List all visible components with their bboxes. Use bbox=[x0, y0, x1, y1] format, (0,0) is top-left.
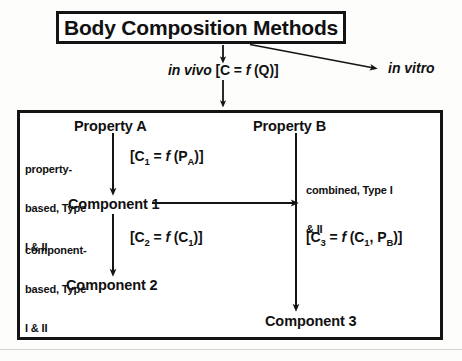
formula-c1-eq: = bbox=[150, 148, 166, 164]
edge-label-component-based-line2: based, Type bbox=[25, 283, 86, 296]
formula-c2-eq: = bbox=[150, 229, 166, 245]
diagram-canvas: Body Composition Methods in vivo [C = f … bbox=[0, 0, 462, 361]
formula-c3-eq: = bbox=[326, 229, 342, 245]
edge-label-combined-line1: combined, Type I bbox=[306, 184, 393, 197]
edge-label-component-based-line3: I & II bbox=[25, 322, 86, 335]
edge-label-property-based-line1: property- bbox=[25, 163, 86, 176]
in-vivo-italic-text: in vivo bbox=[168, 62, 212, 78]
formula-c3-arg-open: (C bbox=[346, 229, 364, 245]
node-property-b: Property B bbox=[253, 118, 326, 135]
formula-c1-arg-open: (P bbox=[170, 148, 188, 164]
formula-c2-arg-open: (C bbox=[170, 229, 188, 245]
formula-c3-arg-mid: , P bbox=[370, 229, 387, 245]
formula-c1-arg-close: )] bbox=[194, 148, 203, 164]
in-vivo-formula: [C = f (Q)] bbox=[215, 62, 278, 78]
in-vivo-label: in vivo [C = f (Q)] bbox=[168, 62, 279, 79]
page-title: Body Composition Methods bbox=[64, 17, 338, 38]
in-vitro-label: in vitro bbox=[388, 60, 435, 77]
formula-c3: [C3 = f (C1, PB)] bbox=[306, 229, 402, 248]
edge-label-component-based-line1: component- bbox=[25, 244, 86, 257]
formula-c3-arg-close: )] bbox=[393, 229, 402, 245]
formula-c1: [C1 = f (PA)] bbox=[130, 148, 203, 167]
formula-c3-lhs: [C bbox=[306, 229, 321, 245]
formula-c1-lhs: [C bbox=[130, 148, 145, 164]
formula-c2-arg-close: )] bbox=[194, 229, 203, 245]
page-scan-line bbox=[0, 349, 462, 350]
edge-label-component-based: component- based, Type I & II bbox=[25, 218, 86, 361]
formula-c2: [C2 = f (C1)] bbox=[130, 229, 203, 248]
edge-label-property-based-line2: based, Type bbox=[25, 202, 86, 215]
title-box: Body Composition Methods bbox=[58, 13, 344, 42]
formula-c2-lhs: [C bbox=[130, 229, 145, 245]
node-component-3: Component 3 bbox=[265, 313, 357, 330]
node-property-a: Property A bbox=[74, 118, 147, 135]
